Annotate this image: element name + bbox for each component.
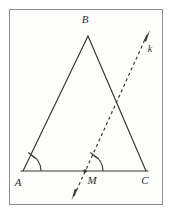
geometry-diagram: B A M C k bbox=[0, 0, 173, 214]
vertex-label-c: C bbox=[141, 174, 149, 186]
vertex-label-a: A bbox=[14, 176, 22, 188]
figure-background bbox=[10, 10, 163, 205]
point-m-dot bbox=[83, 169, 87, 173]
vertex-label-m: M bbox=[86, 174, 97, 186]
vertex-label-b: B bbox=[82, 13, 89, 25]
ray-label-k: k bbox=[148, 43, 153, 54]
figure-container: B A M C k bbox=[0, 0, 173, 214]
